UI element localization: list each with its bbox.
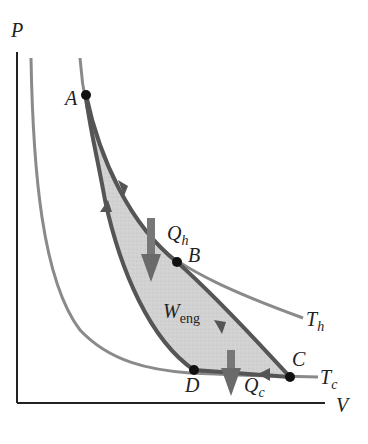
label-th: Th [306,308,324,334]
label-a: A [63,87,78,109]
point-a [81,90,91,100]
label-c: C [292,348,306,370]
point-c [285,372,295,382]
label-d: D [184,374,200,396]
label-qc: Qc [244,374,265,400]
label-qh: Qh [167,222,188,248]
pv-diagram: P V A B C D Th Tc Qh Qc Weng [0,0,368,444]
label-tc: Tc [320,366,338,392]
point-b [172,257,182,267]
label-b: B [188,244,200,266]
v-axis-label: V [336,394,351,416]
p-axis-label: P [10,19,23,41]
